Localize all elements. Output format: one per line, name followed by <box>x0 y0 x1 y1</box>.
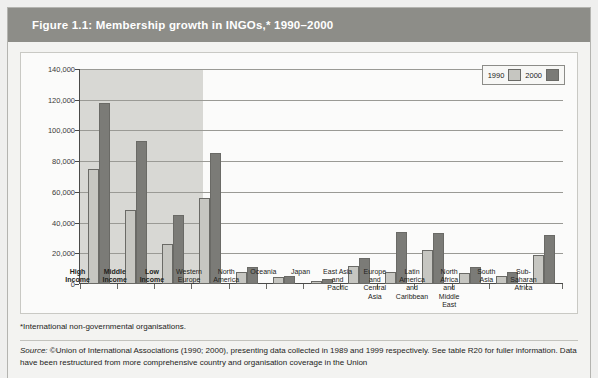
bar-group <box>229 69 266 284</box>
bar-1990 <box>88 169 99 284</box>
bar-group <box>154 69 191 284</box>
figure-source: Source: ©Union of International Associat… <box>20 345 582 368</box>
x-axis-label-line: and <box>431 284 468 292</box>
x-axis-label: SouthAsia <box>468 268 505 309</box>
x-axis-label-line: Oceania <box>245 268 282 276</box>
x-axis-label-line: America <box>208 276 245 284</box>
x-axis-label-line: Low <box>133 268 170 276</box>
legend-label-2000: 2000 <box>525 71 542 80</box>
source-text: ©Union of International Associations (19… <box>20 346 577 367</box>
x-axis-label-line: North <box>431 268 468 276</box>
bar-group <box>117 69 154 284</box>
bar-2000 <box>544 235 555 284</box>
x-axis-label: NorthAfricaandMiddleEast <box>431 268 468 309</box>
legend-swatch-1990 <box>508 69 521 81</box>
x-axis-label-line: Middle <box>431 293 468 301</box>
x-axis-label-line: East Asia <box>319 268 356 276</box>
page-title: Figure 1.1: Membership growth in INGOs,*… <box>8 19 333 31</box>
x-axis-label-line: Pacific <box>319 284 356 292</box>
y-tick-label: 20,000 <box>52 249 75 258</box>
figure-page: Figure 1.1: Membership growth in INGOs,*… <box>0 0 598 378</box>
x-axis-label-line: Asia <box>468 276 505 284</box>
bar-group <box>340 69 377 284</box>
x-axis-label-line: High <box>59 268 96 276</box>
x-axis-label: Sub-SaharanAfrica <box>505 268 542 309</box>
bar-group <box>526 69 563 284</box>
x-axis-label: LatinAmericaandCaribbean <box>393 268 430 309</box>
legend-label-1990: 1990 <box>488 71 505 80</box>
x-axis-label-line: Middle <box>96 268 133 276</box>
x-axis-label: MiddleIncome <box>96 268 133 309</box>
x-axis-label: Japan <box>282 268 319 309</box>
x-axis-label-line: Sub- <box>505 268 542 276</box>
x-axis-label: NorthAmerica <box>208 268 245 309</box>
x-axis-category-labels: HighIncomeMiddleIncomeLowIncomeWesternEu… <box>59 268 542 309</box>
x-axis-label-line: and <box>356 276 393 284</box>
x-axis-label-line: Europe <box>170 276 207 284</box>
bar-group <box>303 69 340 284</box>
y-tick-label: 80,000 <box>52 157 75 166</box>
figure-footnote: *International non-governmental organisa… <box>20 322 580 331</box>
x-axis-label-line: Income <box>96 276 133 284</box>
x-axis-label-line: and <box>393 284 430 292</box>
bar-2000 <box>210 153 221 284</box>
x-axis-label-line: Income <box>59 276 96 284</box>
x-axis-label: WesternEurope <box>170 268 207 309</box>
bar-group <box>452 69 489 284</box>
divider <box>20 340 578 341</box>
x-axis-label-line: South <box>468 268 505 276</box>
x-axis-label-line: Central <box>356 284 393 292</box>
x-axis-label: HighIncome <box>59 268 96 309</box>
bar-group <box>489 69 526 284</box>
x-axis-label-line: Caribbean <box>393 293 430 301</box>
x-axis-label-line: Saharan <box>505 276 542 284</box>
bar-2000 <box>99 103 110 284</box>
chart-legend: 1990 2000 <box>482 65 565 85</box>
x-axis-label-line: Europe <box>356 268 393 276</box>
x-axis-label: LowIncome <box>133 268 170 309</box>
bar-2000 <box>136 141 147 284</box>
bar-group <box>266 69 303 284</box>
x-axis-label-line: America <box>393 276 430 284</box>
bar-groups <box>80 69 563 284</box>
x-axis-label: East AsiaandPacific <box>319 268 356 309</box>
bar-group <box>414 69 451 284</box>
y-tick-label: 120,000 <box>48 95 75 104</box>
y-tick-label: 60,000 <box>52 187 75 196</box>
y-tick-label: 100,000 <box>48 126 75 135</box>
y-tick-label: 140,000 <box>48 65 75 74</box>
x-axis-label-line: Africa <box>431 276 468 284</box>
bar-group <box>377 69 414 284</box>
y-tick-label: 40,000 <box>52 218 75 227</box>
plot-area: 020,00040,00060,00080,000100,000120,0001… <box>79 69 563 301</box>
x-axis-label-line: Latin <box>393 268 430 276</box>
x-axis-label: EuropeandCentralAsia <box>356 268 393 309</box>
x-axis-label-line: and <box>319 276 356 284</box>
figure-title-bar: Figure 1.1: Membership growth in INGOs,*… <box>8 8 590 42</box>
x-axis-label-line: East <box>431 301 468 309</box>
bar-group <box>191 69 228 284</box>
x-axis-label-line: Asia <box>356 293 393 301</box>
bar-group <box>80 69 117 284</box>
legend-swatch-2000 <box>546 69 559 81</box>
x-axis-label: Oceania <box>245 268 282 309</box>
x-axis-label-line: Income <box>133 276 170 284</box>
x-axis-label-line: Africa <box>505 284 542 292</box>
source-prefix: Source: <box>20 346 48 355</box>
x-axis-label-line: Japan <box>282 268 319 276</box>
x-axis-label-line: Western <box>170 268 207 276</box>
x-axis-label-line: North <box>208 268 245 276</box>
